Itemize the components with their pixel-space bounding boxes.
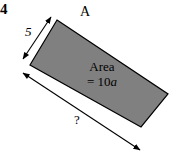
vertex-label-a: A (80, 5, 90, 19)
area-value-prefix: = 10 (87, 74, 111, 89)
area-annotation: Area = 10a (78, 60, 126, 88)
area-value-line: = 10a (78, 75, 126, 88)
long-side-label: ? (74, 113, 80, 126)
problem-number: 4 (0, 2, 8, 17)
area-label-word: Area (89, 59, 114, 74)
geometry-figure: 4 A 5 ? Area = 10a (0, 0, 181, 158)
short-side-label: 5 (25, 25, 32, 38)
area-value-variable: a (111, 74, 118, 89)
